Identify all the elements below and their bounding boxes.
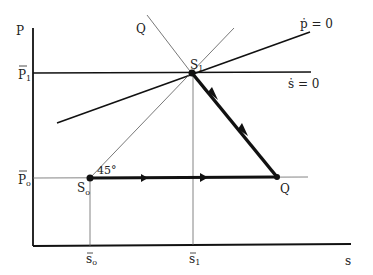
path-q-to-s1 <box>192 73 277 177</box>
angle-label: 45° <box>97 164 117 177</box>
x-axis-label: s <box>345 254 351 268</box>
p-dot-zero-line <box>57 32 310 123</box>
y-axis-label: P <box>16 24 24 38</box>
s1-label: S1 <box>190 58 203 73</box>
svg-text:s1: s1 <box>189 252 200 267</box>
svg-text:Po: Po <box>18 173 31 188</box>
phase-diagram: P s S1 So Q Q ṗ = 0 ṡ = 0 45° P1 Po <box>0 0 373 275</box>
path-s0-to-q <box>90 177 277 178</box>
s-dot-zero-label: ṡ = 0 <box>288 77 319 91</box>
svg-text:so: so <box>86 252 97 267</box>
p0-tick-label: Po <box>18 171 31 188</box>
arrow-icon <box>200 173 208 182</box>
point-q <box>274 174 280 180</box>
p-dot-zero-label: ṗ = 0 <box>300 17 333 31</box>
s0-label: So <box>77 181 90 197</box>
s1-tick-label: s1 <box>189 252 200 267</box>
point-s0 <box>87 175 94 182</box>
s-dot-zero-line <box>33 72 311 73</box>
q-point-label: Q <box>280 182 290 196</box>
arrow-icon <box>141 174 148 182</box>
q-line-label: Q <box>136 22 146 36</box>
x-axis <box>33 244 351 246</box>
s0-tick-label: so <box>86 252 97 267</box>
svg-text:P1: P1 <box>18 68 31 83</box>
p1-tick-label: P1 <box>18 66 31 83</box>
